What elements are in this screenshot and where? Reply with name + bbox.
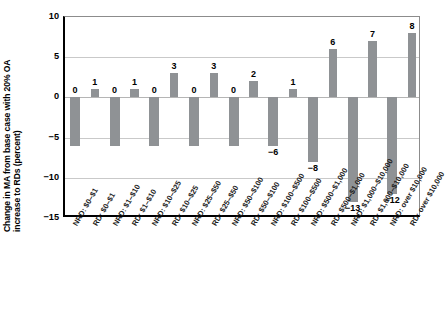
- bar-label-3: 1: [132, 77, 137, 87]
- bar-13: [329, 49, 337, 97]
- bar-11: [289, 89, 297, 97]
- bar-label-0: 0: [72, 85, 77, 95]
- bar-7: [210, 73, 218, 97]
- y-axis-tick-labels: 1050−5−10−15: [28, 0, 62, 240]
- bar-17: [408, 33, 416, 97]
- bar-label-11: 1: [291, 77, 296, 87]
- gridline-1: [65, 57, 419, 58]
- y-axis-tick-3: −5: [49, 132, 59, 142]
- y-axis-tick-0: 10: [49, 11, 59, 21]
- bar-2: [110, 97, 120, 145]
- bar-label-12: −8: [308, 163, 318, 173]
- plot-area: 0101030302−61−86−137−128: [63, 16, 420, 217]
- bar-0: [70, 97, 80, 145]
- bar-12: [308, 97, 318, 161]
- y-axis-title-line-2: increase to RDs (percent): [12, 130, 22, 232]
- bar-label-1: 1: [92, 77, 97, 87]
- y-axis-tick-2: 0: [54, 91, 59, 101]
- y-axis-tick-4: −10: [43, 172, 59, 182]
- bar-label-7: 3: [211, 61, 216, 71]
- bar-4: [149, 97, 159, 145]
- bar-8: [229, 97, 239, 145]
- bar-label-5: 3: [172, 61, 177, 71]
- bar-10: [268, 97, 278, 145]
- bar-label-9: 2: [251, 69, 256, 79]
- bar-1: [91, 89, 99, 97]
- bar-15: [368, 41, 376, 97]
- bar-6: [189, 97, 199, 145]
- y-axis-tick-5: −15: [43, 212, 59, 222]
- bar-label-6: 0: [191, 85, 196, 95]
- bar-label-8: 0: [231, 85, 236, 95]
- bar-label-15: 7: [370, 29, 375, 39]
- bar-label-2: 0: [112, 85, 117, 95]
- bar-label-4: 0: [152, 85, 157, 95]
- bar-label-10: −6: [268, 147, 278, 157]
- bar-label-13: 6: [330, 37, 335, 47]
- bar-5: [170, 73, 178, 97]
- bar-9: [249, 81, 257, 97]
- y-axis-title: Change in MA from base case with 20% OA …: [0, 0, 30, 240]
- gridline-4: [65, 178, 419, 179]
- y-axis-title-line-1: Change in MA from base case with 20% OA: [2, 60, 12, 232]
- bar-label-17: 8: [410, 21, 415, 31]
- y-axis-tick-1: 5: [54, 51, 59, 61]
- bar-3: [130, 89, 138, 97]
